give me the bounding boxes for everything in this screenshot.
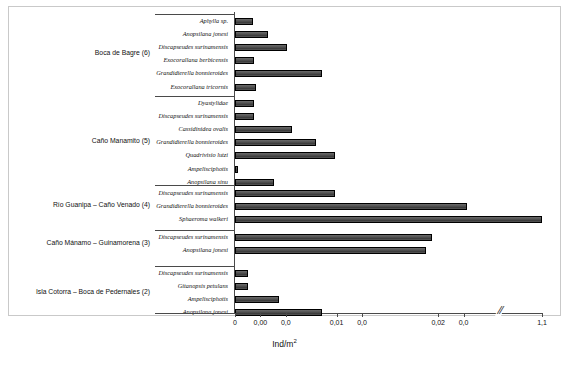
bar — [235, 57, 254, 64]
bar — [235, 31, 268, 38]
bar — [235, 283, 248, 290]
bar-row: Grandidierella bonnieroides — [0, 70, 569, 79]
species-label: Cassidinidea ovalis — [0, 125, 228, 132]
bar-row: Discapseudes surinamensis — [0, 113, 569, 122]
species-label: Grandidierella bonnieroides — [0, 69, 228, 76]
x-tick-label: 0,0 — [266, 319, 306, 326]
bar-row: Ampelisciphotis — [0, 166, 569, 175]
species-label: Sphaeroma walkeri — [0, 215, 228, 222]
species-label: Exocorallana tricornis — [0, 83, 228, 90]
species-label: Exocorallana berbicensis — [0, 56, 228, 63]
group-label-4: Isla Cotorra – Boca de Pedernales (2) — [0, 288, 150, 295]
bar-row: Sphaeroma walkeri — [0, 216, 569, 225]
bar — [235, 203, 467, 210]
x-tick — [337, 313, 338, 317]
figure-root: Aphylla sp.Anopsilana jonesiDiscapseudes… — [0, 0, 569, 367]
x-tick — [260, 313, 261, 317]
group-label-1: Caño Manamito (5) — [0, 137, 150, 144]
bar — [235, 18, 253, 25]
bar-row: Dyastylidae — [0, 100, 569, 109]
bar — [235, 152, 335, 159]
species-label: Discapseudes surinamensis — [0, 189, 228, 196]
bar — [235, 44, 287, 51]
bar — [235, 234, 432, 241]
species-label: Anopsilana jonesi — [0, 308, 228, 315]
bar — [235, 309, 322, 316]
species-label: Anopsilana jonesi — [0, 30, 228, 37]
bar — [235, 70, 322, 77]
bar-row: Exocorallana tricornis — [0, 84, 569, 93]
group-separator — [155, 14, 235, 15]
species-label: Ampelisciphotis — [0, 165, 228, 172]
bar — [235, 190, 335, 197]
bar-row: Exocorallana berbicensis — [0, 57, 569, 66]
group-separator — [155, 266, 235, 267]
bar — [235, 100, 254, 107]
bar-row: Anopsilana jonesi — [0, 309, 569, 318]
bar — [235, 84, 256, 91]
group-label-2: Río Guanipa – Caño Venado (4) — [0, 201, 150, 208]
bar — [235, 296, 279, 303]
group-separator — [155, 185, 235, 186]
bar — [235, 270, 248, 277]
bar — [235, 126, 292, 133]
group-label-0: Boca de Bagre (6) — [0, 49, 150, 56]
x-axis-label-superscript: 2 — [293, 338, 296, 344]
x-tick — [362, 313, 363, 317]
x-tick — [235, 313, 236, 317]
x-tick — [438, 313, 439, 317]
species-label: Discapseudes surinamensis — [0, 112, 228, 119]
x-tick-label: 0,0 — [444, 319, 484, 326]
bar-row: Anopsilana jonesi — [0, 247, 569, 256]
species-label: Discapseudes surinamensis — [0, 269, 228, 276]
species-label: Ampelisciphotis — [0, 295, 228, 302]
bar-rows-container: Aphylla sp.Anopsilana jonesiDiscapseudes… — [0, 0, 569, 313]
bar — [235, 216, 542, 223]
x-tick — [542, 313, 543, 317]
x-tick — [464, 313, 465, 317]
bar-row: Ampelisciphotis — [0, 296, 569, 305]
bar-row: Quadrivisio lutzi — [0, 152, 569, 161]
bar — [235, 113, 254, 120]
bar-row: Anopsilana jonesi — [0, 31, 569, 40]
bar — [235, 179, 274, 186]
bar-row: Aphylla sp. — [0, 18, 569, 27]
bar — [235, 247, 426, 254]
x-axis-label-text: Ind/m — [272, 339, 293, 349]
species-label: Dyastylidae — [0, 99, 228, 106]
bar — [235, 166, 238, 173]
group-separator — [155, 230, 235, 231]
bar-row: Discapseudes surinamensis — [0, 190, 569, 199]
species-label: Anopsilana jonesi — [0, 246, 228, 253]
x-axis-label: Ind/m2 — [0, 338, 569, 349]
species-label: Quadrivisio lutzi — [0, 151, 228, 158]
bar-row: Discapseudes surinamensis — [0, 270, 569, 279]
group-separator — [155, 313, 235, 314]
x-tick-label: 0,0 — [342, 319, 382, 326]
group-label-3: Caño Mánamo – Guinamorena (3) — [0, 239, 150, 246]
bar-row: Cassidinidea ovalis — [0, 126, 569, 135]
species-label: Aphylla sp. — [0, 17, 228, 24]
x-tick — [286, 313, 287, 317]
x-tick-label: 1,1 — [522, 319, 562, 326]
species-label: Anopsilana sinu — [0, 178, 228, 185]
group-separator — [155, 96, 235, 97]
bar — [235, 139, 316, 146]
bar-row: Anopsilana sinu — [0, 179, 569, 188]
